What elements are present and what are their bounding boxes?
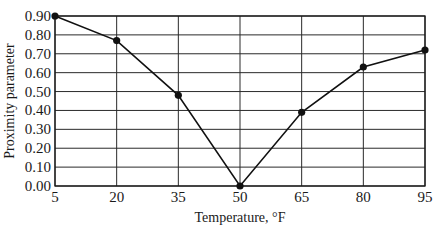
x-tick-label: 95 xyxy=(418,189,433,205)
y-tick-label: 0.60 xyxy=(25,65,51,81)
data-point-marker xyxy=(298,109,305,116)
data-point-marker xyxy=(113,37,120,44)
data-point-marker xyxy=(360,63,367,70)
y-tick-label: 0.90 xyxy=(25,8,51,24)
x-tick-label: 65 xyxy=(294,189,309,205)
y-tick-label: 0.40 xyxy=(25,102,51,118)
y-axis-label: Proximity parameter xyxy=(2,43,17,159)
data-point-marker xyxy=(51,12,58,19)
data-point-marker xyxy=(236,182,243,189)
grid-lines xyxy=(55,16,425,186)
x-axis-ticks: 5203550658095 xyxy=(51,189,432,205)
y-tick-label: 0.00 xyxy=(25,178,51,194)
y-tick-label: 0.10 xyxy=(25,159,51,175)
x-tick-label: 35 xyxy=(171,189,186,205)
x-axis-label: Temperature, °F xyxy=(195,210,286,225)
y-tick-label: 0.70 xyxy=(25,46,51,62)
x-tick-label: 20 xyxy=(109,189,124,205)
x-tick-label: 5 xyxy=(51,189,59,205)
line-chart: 0.000.100.200.300.400.500.600.700.800.90… xyxy=(0,0,440,234)
x-tick-label: 80 xyxy=(356,189,371,205)
y-tick-label: 0.20 xyxy=(25,140,51,156)
data-point-marker xyxy=(421,46,428,53)
y-axis-ticks: 0.000.100.200.300.400.500.600.700.800.90 xyxy=(25,8,51,194)
data-point-marker xyxy=(175,92,182,99)
y-tick-label: 0.80 xyxy=(25,27,51,43)
x-tick-label: 50 xyxy=(233,189,248,205)
y-tick-label: 0.50 xyxy=(25,84,51,100)
y-tick-label: 0.30 xyxy=(25,121,51,137)
